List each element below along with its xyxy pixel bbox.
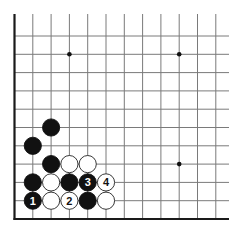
black-stone-icon xyxy=(24,174,41,191)
black-stone-icon xyxy=(24,137,41,154)
hoshi-point-icon xyxy=(67,52,72,57)
white-stone xyxy=(43,174,60,191)
hoshi-point-icon xyxy=(177,52,182,57)
white-stone-icon xyxy=(43,192,60,209)
white-stone xyxy=(61,156,78,173)
black-stone-icon xyxy=(43,119,60,136)
move-number-label: 2 xyxy=(66,195,72,207)
white-stone xyxy=(79,156,96,173)
go-board-diagram: 3412 xyxy=(0,0,237,231)
black-stone xyxy=(24,174,41,191)
black-stone xyxy=(43,156,60,173)
black-stone: 3 xyxy=(79,174,96,191)
white-stone-icon xyxy=(61,156,78,173)
black-stone: 1 xyxy=(24,192,41,209)
white-stone-icon xyxy=(79,156,96,173)
white-stone-icon xyxy=(97,192,114,209)
black-stone xyxy=(24,137,41,154)
white-stone: 4 xyxy=(97,174,114,191)
white-stone: 2 xyxy=(61,192,78,209)
move-number-label: 4 xyxy=(103,176,110,188)
move-number-label: 3 xyxy=(85,176,91,188)
black-stone-icon xyxy=(61,174,78,191)
white-stone xyxy=(97,192,114,209)
black-stone xyxy=(43,119,60,136)
black-stone-icon xyxy=(79,192,96,209)
black-stone xyxy=(79,192,96,209)
black-stone-icon xyxy=(43,156,60,173)
move-number-label: 1 xyxy=(30,195,36,207)
black-stone xyxy=(61,174,78,191)
white-stone xyxy=(43,192,60,209)
white-stone-icon xyxy=(43,174,60,191)
hoshi-point-icon xyxy=(177,162,182,167)
